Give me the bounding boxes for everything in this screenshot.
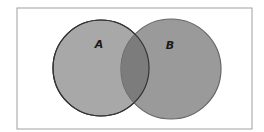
set-a-label: A	[94, 38, 104, 51]
set-b-label: B	[166, 39, 174, 52]
venn-diagram: A B	[0, 0, 264, 132]
